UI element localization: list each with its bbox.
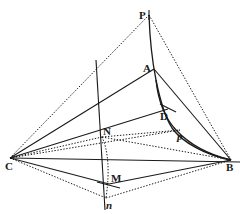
label-B: B — [226, 161, 234, 173]
label-D: D — [160, 110, 168, 122]
geometry-figure: P A D p N C B M n — [0, 0, 242, 214]
line-M-B — [109, 160, 231, 184]
dotted-C-p — [10, 130, 180, 158]
dotted-n-B — [106, 160, 231, 198]
line-C-M — [10, 158, 109, 184]
line-C-B — [10, 158, 240, 162]
label-N: N — [103, 125, 111, 137]
label-M: M — [111, 172, 122, 184]
label-A: A — [143, 62, 151, 74]
diagram-canvas: P A D p N C B M n — [0, 0, 242, 214]
dotted-N-B — [102, 137, 231, 160]
label-C: C — [5, 160, 13, 172]
label-n: n — [106, 199, 112, 211]
dotted-C-n — [10, 158, 106, 198]
label-P: P — [139, 9, 146, 21]
label-p: p — [176, 130, 183, 142]
dotted-P-B — [149, 15, 231, 160]
dotted-C-N — [10, 137, 102, 158]
line-C-A — [10, 69, 154, 158]
